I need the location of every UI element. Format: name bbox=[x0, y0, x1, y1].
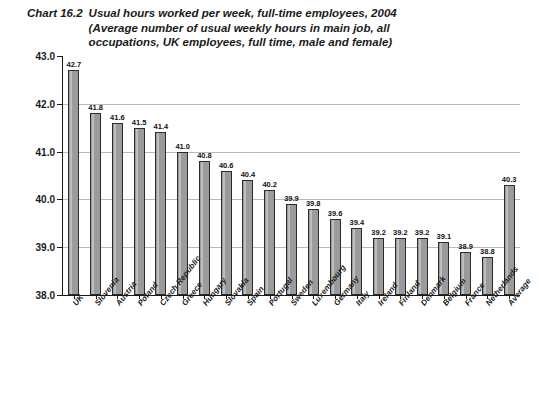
bar-value-label: 39.1 bbox=[437, 232, 452, 241]
y-axis-tick bbox=[57, 199, 63, 200]
bar-value-label: 40.8 bbox=[197, 151, 212, 160]
chart-page: Chart 16.2 Usual hours worked per week, … bbox=[0, 0, 539, 411]
y-axis-tick bbox=[57, 295, 63, 296]
bar-value-label: 39.9 bbox=[284, 194, 299, 203]
y-axis-tick bbox=[57, 247, 63, 248]
bar-value-label: 39.8 bbox=[306, 199, 321, 208]
gridline bbox=[63, 104, 520, 105]
y-axis-tick-label: 40.0 bbox=[17, 194, 55, 205]
bar-value-label: 41.0 bbox=[175, 142, 190, 151]
bar-value-label: 41.8 bbox=[88, 103, 103, 112]
bar-value-label: 39.2 bbox=[415, 228, 430, 237]
bar-value-label: 38.9 bbox=[458, 242, 473, 251]
y-axis-tick-label: 41.0 bbox=[17, 146, 55, 157]
y-axis-tick bbox=[57, 152, 63, 153]
bar[interactable] bbox=[373, 238, 384, 295]
bar[interactable] bbox=[68, 70, 79, 295]
bar[interactable] bbox=[199, 161, 210, 295]
bar-value-label: 39.6 bbox=[328, 209, 343, 218]
y-axis-tick bbox=[57, 56, 63, 57]
bar-value-label: 41.4 bbox=[154, 122, 169, 131]
bar-value-label: 41.5 bbox=[132, 118, 147, 127]
y-axis-tick-label: 43.0 bbox=[17, 51, 55, 62]
y-axis-labels: 38.039.040.041.042.043.0 bbox=[8, 0, 55, 411]
bar-value-label: 42.7 bbox=[67, 60, 82, 69]
bar-value-label: 40.6 bbox=[219, 161, 234, 170]
chart-title-line-1: Usual hours worked per week, full-time e… bbox=[89, 6, 397, 21]
gridline bbox=[63, 152, 520, 153]
bar-value-label: 38.8 bbox=[480, 247, 495, 256]
bar-value-label: 40.4 bbox=[241, 170, 256, 179]
chart-title-lines: Usual hours worked per week, full-time e… bbox=[89, 6, 397, 50]
bar-value-label: 40.3 bbox=[502, 175, 517, 184]
bar[interactable] bbox=[264, 190, 275, 295]
plot-area: 42.741.841.641.541.441.040.840.640.440.2… bbox=[63, 56, 520, 295]
bar[interactable] bbox=[90, 113, 101, 295]
bar-value-label: 39.2 bbox=[393, 228, 408, 237]
bar-value-label: 39.2 bbox=[371, 228, 386, 237]
y-axis-tick-label: 42.0 bbox=[17, 98, 55, 109]
y-axis-tick bbox=[57, 104, 63, 105]
chart-title-line-3: occupations, UK employees, full time, ma… bbox=[89, 35, 397, 50]
bar[interactable] bbox=[112, 123, 123, 295]
bar[interactable] bbox=[134, 128, 145, 295]
bar-value-label: 39.4 bbox=[349, 218, 364, 227]
bar[interactable] bbox=[155, 132, 166, 295]
y-axis-tick-label: 38.0 bbox=[17, 290, 55, 301]
bar-value-label: 41.6 bbox=[110, 113, 125, 122]
chart-title-line-2: (Average number of usual weekly hours in… bbox=[89, 21, 397, 36]
bar-value-label: 40.2 bbox=[262, 180, 277, 189]
chart-title-block: Chart 16.2 Usual hours worked per week, … bbox=[27, 6, 527, 50]
y-axis-tick-label: 39.0 bbox=[17, 242, 55, 253]
